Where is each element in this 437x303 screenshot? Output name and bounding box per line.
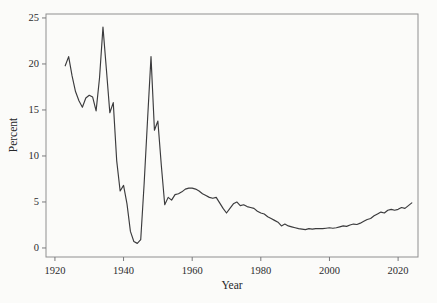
chart-figure: 0510152025192019401960198020002020 Perce…: [0, 0, 437, 303]
x-tick-label: 1960: [182, 265, 203, 276]
y-axis-title: Percent: [7, 118, 19, 152]
x-tick-label: 1940: [113, 265, 134, 276]
x-tick-label: 1920: [44, 265, 65, 276]
y-tick-label: 15: [29, 104, 40, 115]
x-tick-label: 2000: [319, 265, 340, 276]
x-tick-label: 2020: [388, 265, 409, 276]
x-tick-label: 1980: [250, 265, 271, 276]
y-tick-label: 0: [34, 242, 39, 253]
x-axis-title: Year: [221, 279, 242, 291]
y-tick-label: 20: [29, 58, 40, 69]
data-line-percent: [65, 27, 412, 243]
y-tick-label: 10: [29, 150, 40, 161]
y-tick-label: 5: [34, 196, 39, 207]
line-chart-canvas: 0510152025192019401960198020002020: [0, 0, 437, 303]
y-tick-label: 25: [29, 12, 40, 23]
